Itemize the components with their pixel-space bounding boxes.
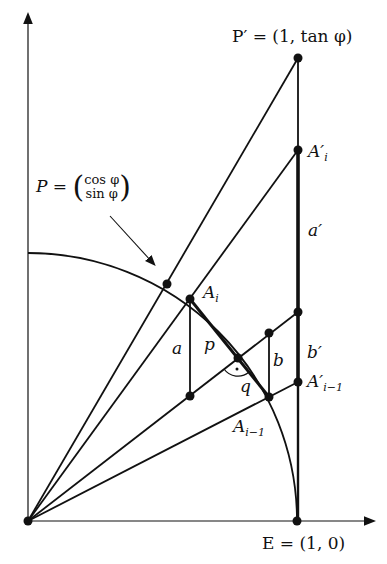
A-i-prime-main: A′ [308, 141, 324, 161]
P-vec-bottom: sin φ [86, 186, 118, 201]
A-i-main: A [203, 282, 215, 302]
unit-circle-arc [28, 253, 297, 521]
A-im1-prime-sub: i−1 [323, 381, 343, 394]
point-P-prime [294, 54, 303, 63]
right-angle-dot [236, 368, 239, 371]
point-A-im1 [265, 393, 274, 402]
pointer-arrow-to-P [110, 216, 152, 262]
label-A-i-prime: A′i [308, 143, 328, 163]
paren-close: ) [119, 169, 131, 204]
P-vec-top: cos φ [84, 172, 119, 187]
label-P: P = (cos φsin φ) [36, 172, 131, 202]
A-im1-main: A [233, 416, 245, 436]
label-P-prime: P′ = (1, tan φ) [232, 28, 352, 45]
A-i-sub: i [215, 292, 219, 305]
point-E [293, 517, 302, 526]
point-mid-tangent [294, 308, 303, 317]
diagram-canvas [0, 0, 387, 564]
chord-p-q [190, 299, 269, 397]
point-a-foot [186, 392, 195, 401]
label-q: q [240, 378, 251, 395]
point-b-top [265, 329, 274, 338]
point-A-i [186, 295, 195, 304]
point-P [163, 280, 172, 289]
label-b: b [273, 352, 284, 369]
label-A-im1-prime: A′i−1 [307, 373, 343, 393]
A-i-prime-sub: i [324, 151, 328, 164]
label-a-prime: a′ [308, 222, 322, 239]
paren-open: ( [73, 169, 85, 204]
A-im1-sub: i−1 [245, 426, 265, 439]
point-M [234, 354, 243, 363]
label-A-im1: Ai−1 [233, 418, 265, 438]
P-vector: cos φsin φ [84, 173, 119, 201]
label-b-prime: b′ [307, 344, 322, 361]
point-A-i-prime [294, 146, 303, 155]
label-A-i: Ai [203, 284, 219, 304]
point-A-im1-prime [294, 378, 303, 387]
point-origin [24, 517, 33, 526]
label-p: p [204, 336, 215, 353]
A-im1-prime-main: A′ [307, 371, 323, 391]
ray-bisector [28, 312, 298, 521]
ray-to-A-i-prime [28, 150, 298, 521]
label-a: a [172, 340, 182, 357]
label-P-prefix: P = [36, 176, 67, 196]
label-E: E = (1, 0) [262, 535, 345, 552]
